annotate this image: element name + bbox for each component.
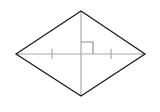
rhombus-diagram: [0, 0, 160, 112]
